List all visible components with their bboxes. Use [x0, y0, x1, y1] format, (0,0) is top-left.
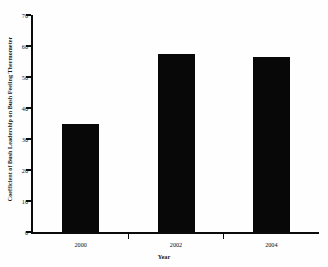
x-axis-title: Year: [0, 253, 328, 260]
y-axis-tick: [26, 138, 31, 140]
y-axis-tick: [26, 107, 31, 109]
bar-2000: [62, 124, 99, 233]
bar-2002: [158, 54, 195, 232]
x-axis-line: [31, 232, 319, 234]
y-axis-tick: [26, 76, 31, 78]
bar-2004: [253, 57, 290, 232]
x-axis-tick-label: 2000: [74, 241, 86, 248]
x-axis-tick-label: 2004: [265, 241, 277, 248]
x-axis-tick-label: 2002: [170, 241, 182, 248]
y-axis-title: Coefficient of Bush Leadership on Bush F…: [7, 36, 13, 200]
y-axis-tick: [26, 169, 31, 171]
bar-chart-figure: Coefficient of Bush Leadership on Bush F…: [0, 0, 328, 267]
x-axis-tick: [223, 234, 225, 239]
y-axis-tick: [26, 45, 31, 47]
y-axis-tick: [26, 200, 31, 202]
y-axis-tick: [26, 231, 31, 233]
plot-area: [33, 15, 319, 232]
y-axis-tick-labels: 010203040506070: [14, 0, 28, 267]
y-axis-tick: [26, 14, 31, 16]
x-axis-tick: [128, 234, 130, 239]
